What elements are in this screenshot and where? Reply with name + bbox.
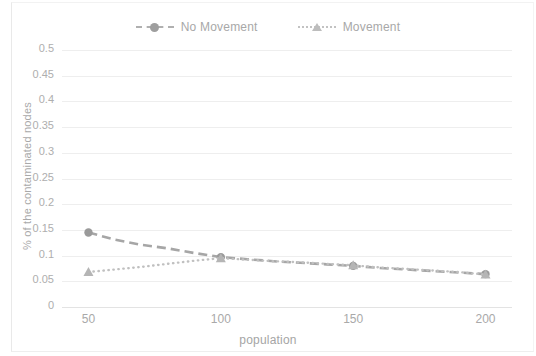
legend-item-movement: Movement <box>298 20 401 34</box>
y-tick-text: 0.3 <box>39 145 54 157</box>
legend-key-dotted-triangle-icon <box>298 21 336 33</box>
y-tick-text: 0.25 <box>33 171 54 183</box>
x-tick-label: 100 <box>211 312 231 326</box>
y-tick-text: 0.05 <box>33 273 54 285</box>
chart-container: No Movement Movement % of the contaminat… <box>0 0 536 356</box>
x-axis-title: population <box>0 333 536 347</box>
series-movement <box>83 253 490 278</box>
x-axis-line <box>62 307 512 308</box>
series-line <box>88 232 485 274</box>
legend-label-movement: Movement <box>343 20 401 34</box>
y-axis-title: % of the contaminated nodes <box>21 76 33 276</box>
series-line <box>88 258 485 274</box>
y-tick-text: 0 <box>48 299 54 311</box>
series-layer <box>62 50 512 307</box>
y-tick-text: 0.1 <box>39 248 54 260</box>
y-tick-text: 0.45 <box>33 68 54 80</box>
x-tick-label: 50 <box>82 312 95 326</box>
chart-legend: No Movement Movement <box>0 20 536 34</box>
x-tick-label: 200 <box>476 312 496 326</box>
y-tick-text: 0.15 <box>33 222 54 234</box>
plot-area: 00.050.10.150.20.250.30.350.40.450.5 501… <box>62 50 512 307</box>
y-tick-text: 0.2 <box>39 196 54 208</box>
y-tick-text: 0.5 <box>39 42 54 54</box>
data-point-marker <box>83 267 93 276</box>
y-tick-text: 0.35 <box>33 119 54 131</box>
y-tick-text: 0.4 <box>39 93 54 105</box>
legend-item-no-movement: No Movement <box>136 20 258 34</box>
legend-key-dashed-circle-icon <box>136 21 174 33</box>
series-no-movement <box>84 228 489 278</box>
x-tick-label: 150 <box>343 312 363 326</box>
legend-label-no-movement: No Movement <box>181 20 258 34</box>
data-point-marker <box>84 228 92 236</box>
